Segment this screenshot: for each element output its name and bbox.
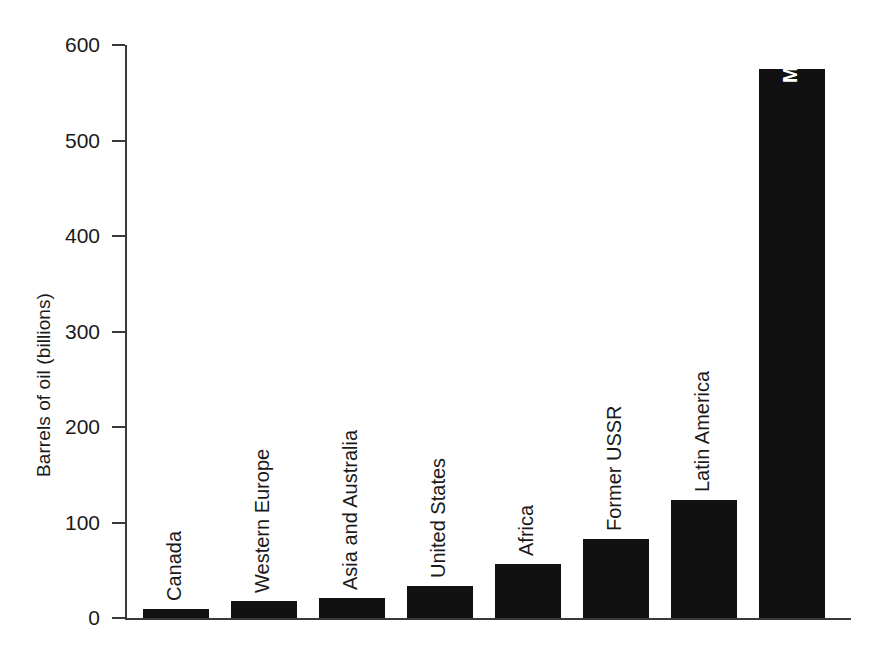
bar-group: Western Europe — [222, 45, 310, 618]
y-axis-tick-label-text: 600 — [40, 34, 100, 55]
y-axis-tick-label: 600 — [38, 34, 100, 55]
y-axis-tick-label-text: 100 — [40, 512, 100, 533]
x-axis-line — [125, 618, 851, 620]
y-axis-tick-label-text: 400 — [40, 225, 100, 246]
bar-label-text: Canada — [164, 531, 184, 601]
bar-group: Latin America — [662, 45, 750, 618]
bar[interactable] — [407, 586, 473, 618]
y-axis-tick — [112, 331, 125, 333]
plot-area: CanadaWestern EuropeAsia and AustraliaUn… — [125, 45, 851, 618]
bar-label-text: Latin America — [692, 370, 712, 491]
bar-group: Middle East — [750, 45, 838, 618]
bar-group: Canada — [134, 45, 222, 618]
bar-group: Africa — [486, 45, 574, 618]
bar[interactable] — [759, 69, 825, 618]
y-axis-tick — [112, 522, 125, 524]
bar[interactable] — [583, 539, 649, 618]
y-axis-tick-label: 200 — [38, 416, 100, 437]
bar-label-text: Western Europe — [252, 449, 272, 593]
y-axis-tick — [112, 426, 125, 428]
bar-label-text: United States — [428, 457, 448, 577]
y-axis-tick-label: 300 — [38, 321, 100, 342]
bar[interactable] — [671, 500, 737, 618]
y-axis-tick-label: 400 — [38, 225, 100, 246]
bar[interactable] — [143, 609, 209, 618]
y-axis-tick-label-text: 300 — [40, 321, 100, 342]
y-axis-tick — [112, 617, 125, 619]
y-axis-tick-label: 100 — [38, 512, 100, 533]
y-axis-tick-label: 0 — [38, 607, 100, 628]
bar[interactable] — [231, 601, 297, 618]
y-axis-tick-label-text: 200 — [40, 416, 100, 437]
y-axis-tick — [112, 44, 125, 46]
y-axis-title: Barrels of oil (billions) — [33, 255, 55, 515]
y-axis-tick-label: 500 — [38, 130, 100, 151]
bar-group: Former USSR — [574, 45, 662, 618]
bar-label-text: Middle East — [780, 0, 800, 83]
y-axis-tick — [112, 140, 125, 142]
bar-group: Asia and Australia — [310, 45, 398, 618]
bar-label-text: Asia and Australia — [340, 430, 360, 590]
y-axis-tick — [112, 235, 125, 237]
bar-label-text: Former USSR — [604, 405, 624, 531]
bar-chart: Barrels of oil (billions) 60050040030020… — [0, 0, 869, 671]
bar-group: United States — [398, 45, 486, 618]
y-axis-tick-label-text: 0 — [40, 607, 100, 628]
bar[interactable] — [319, 598, 385, 618]
y-axis-tick-label-text: 500 — [40, 130, 100, 151]
bar[interactable] — [495, 564, 561, 618]
bar-label-text: Africa — [516, 504, 536, 555]
